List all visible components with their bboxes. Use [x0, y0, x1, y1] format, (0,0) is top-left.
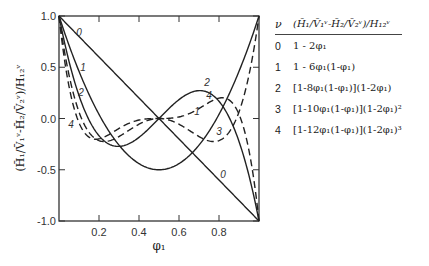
legend-row: 4 [1-12φ₁(1-φ₁)](1-2φ₁)³	[275, 119, 429, 140]
x-tick-label: 0.8	[211, 226, 226, 238]
curve-label-0: 0	[220, 169, 226, 180]
x-tick-label: 0.4	[131, 226, 146, 238]
legend-nu: 3	[275, 103, 293, 115]
curve-label-2: 2	[203, 77, 210, 88]
legend-nu: 4	[275, 124, 293, 136]
y-tick-label: 1.0	[41, 10, 56, 22]
legend-row: 3 [1-10φ₁(1-φ₁)](1-2φ₁)²	[275, 98, 429, 119]
curve-label-4: 4	[68, 119, 74, 130]
legend-expr: [1-10φ₁(1-φ₁)](1-2φ₁)²	[293, 103, 402, 114]
x-tick-label: 0.6	[171, 226, 186, 238]
legend-expr: [1-12φ₁(1-φ₁)](1-2φ₁)³	[293, 124, 402, 135]
legend-nu: 2	[275, 82, 293, 94]
legend-header-nu: ν	[275, 18, 293, 31]
legend-row: 2 [1-8φ₁(1-φ₁)](1-2φ₁)	[275, 77, 429, 98]
y-axis-label: (H̄₁/V̄₁ᵛ-H̄₂/V̄₂ᵛ)/H₁₂ᵛ	[14, 65, 27, 172]
y-tick-label: 0.5	[41, 61, 56, 73]
curve-label-1: 1	[194, 106, 200, 117]
legend-table: ν (H̄₁/V̄₁ᵛ-H̄₂/V̄₂ᵛ)/H₁₂ᵛ 0 1 - 2φ₁ 1 1…	[270, 18, 429, 140]
legend-row: 0 1 - 2φ₁	[275, 35, 429, 56]
curve-label-2: 2	[77, 87, 84, 98]
legend-nu: 1	[275, 61, 293, 73]
legend-expr: [1-8φ₁(1-φ₁)](1-2φ₁)	[293, 82, 391, 93]
curve-label-1: 1	[80, 62, 86, 73]
curve-nu-3	[59, 16, 259, 142]
y-tick-label: 0.0	[41, 113, 56, 125]
y-tick-label: -1.0	[37, 215, 56, 227]
curve-label-0: 0	[76, 27, 82, 38]
legend-header: ν (H̄₁/V̄₁ᵛ-H̄₂/V̄₂ᵛ)/H₁₂ᵛ	[275, 18, 402, 35]
curve-label-3: 3	[216, 126, 222, 137]
legend-expr: 1 - 2φ₁	[293, 40, 326, 51]
y-tick-label: -0.5	[37, 164, 56, 176]
legend-expr: 1 - 6φ₁(1-φ₁)	[293, 61, 355, 72]
legend-row: 1 1 - 6φ₁(1-φ₁)	[275, 56, 429, 77]
legend-nu: 0	[275, 40, 293, 52]
curve-label-4: 4	[206, 90, 212, 101]
x-axis-label: φ₁	[152, 239, 165, 253]
legend-header-expr: (H̄₁/V̄₁ᵛ-H̄₂/V̄₂ᵛ)/H₁₂ᵛ	[293, 18, 390, 31]
curve-nu-1	[59, 16, 259, 170]
curves	[59, 16, 259, 221]
x-tick-label: 0.2	[91, 226, 106, 238]
